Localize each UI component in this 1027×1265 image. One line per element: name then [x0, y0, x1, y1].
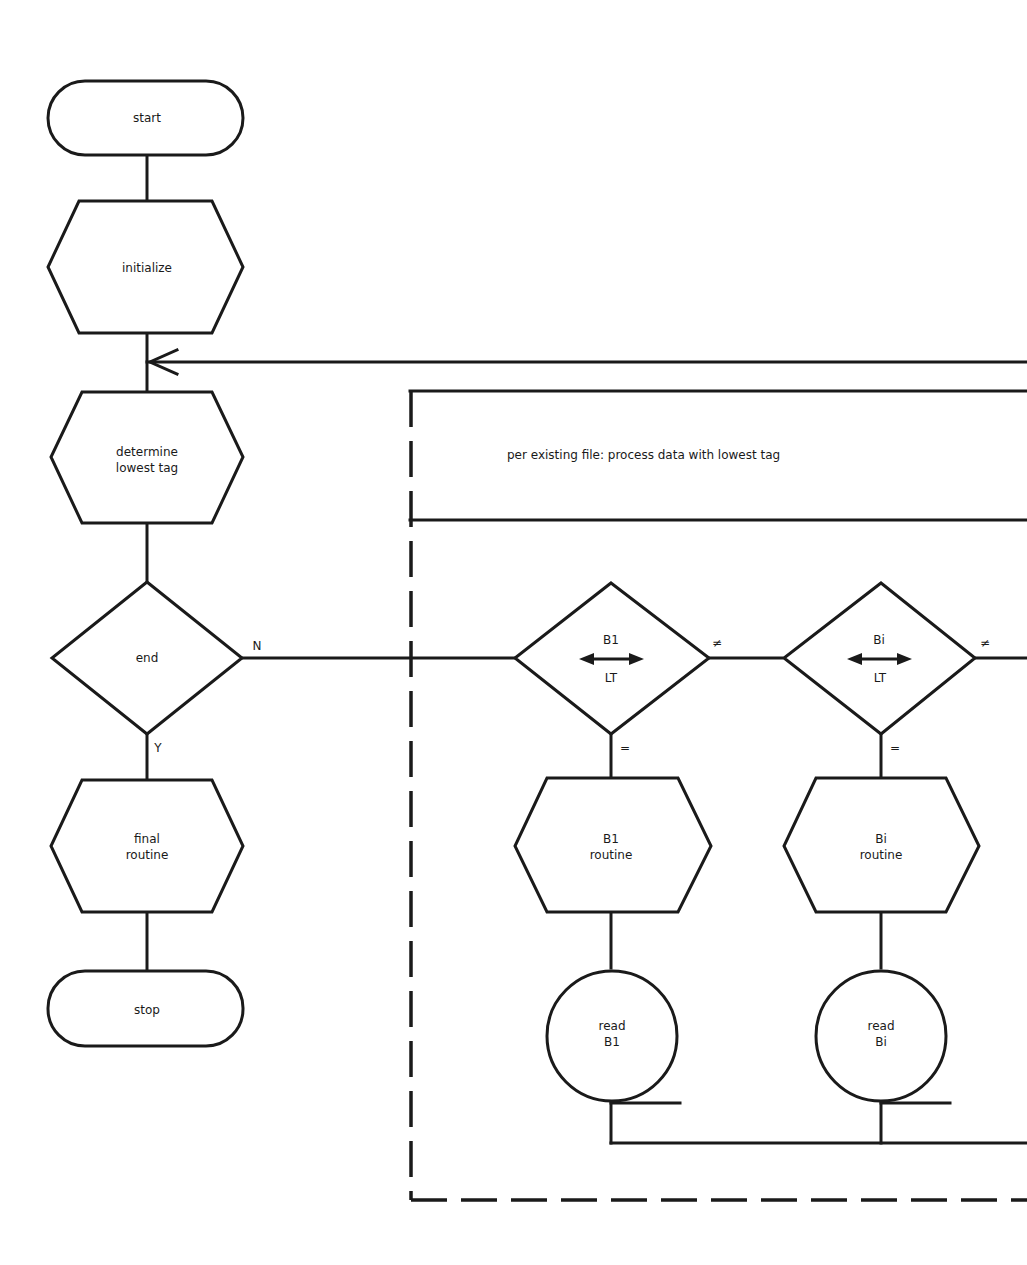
read-bi-line1: read — [867, 1019, 894, 1033]
bi-decision-top-label: Bi — [873, 633, 885, 647]
final-label-line1: final — [134, 832, 160, 846]
bi-not-equal-label: ≠ — [980, 636, 990, 650]
b1-not-equal-label: ≠ — [712, 636, 722, 650]
b1-routine-line2: routine — [590, 848, 633, 862]
determine-label-line1: determine — [116, 445, 178, 459]
bi-equal-label: = — [890, 741, 900, 755]
process-final-routine — [51, 780, 243, 912]
subprocess-note: per existing file: process data with low… — [507, 448, 780, 462]
initialize-label: initialize — [122, 261, 172, 275]
stop-label: stop — [134, 1003, 160, 1017]
flowchart-canvas: start initialize determine lowest tag en… — [0, 0, 1027, 1265]
read-b1-line2: B1 — [604, 1035, 620, 1049]
b1-decision-bottom-label: LT — [605, 671, 618, 685]
end-label: end — [136, 651, 159, 665]
branch-yes-label: Y — [153, 741, 162, 755]
read-b1-line1: read — [598, 1019, 625, 1033]
b1-equal-label: = — [620, 741, 630, 755]
final-label-line2: routine — [126, 848, 169, 862]
b1-decision-top-label: B1 — [603, 633, 619, 647]
start-label: start — [133, 111, 161, 125]
bi-routine-line1: Bi — [875, 832, 887, 846]
branch-no-label: N — [253, 639, 262, 653]
bi-routine-line2: routine — [860, 848, 903, 862]
read-bi-line2: Bi — [875, 1035, 887, 1049]
b1-routine-line1: B1 — [603, 832, 619, 846]
determine-label-line2: lowest tag — [116, 461, 178, 475]
bi-decision-bottom-label: LT — [874, 671, 887, 685]
